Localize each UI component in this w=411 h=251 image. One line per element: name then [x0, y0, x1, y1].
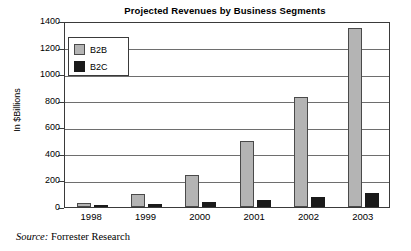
- bar-b2c-2002: [311, 197, 325, 207]
- y-tick-label: 0: [20, 203, 60, 212]
- bar-b2c-2000: [202, 202, 216, 207]
- bar-b2b-2001: [240, 141, 254, 207]
- gridline: [65, 182, 389, 183]
- bar-b2b-2002: [294, 97, 308, 207]
- x-tick-label-2000: 2000: [180, 211, 220, 222]
- y-tick-label: 1400: [20, 17, 60, 26]
- bar-b2b-2000: [185, 175, 199, 207]
- source-note: Source: Forrester Research: [16, 231, 130, 242]
- legend-swatch-b2c-icon: [74, 61, 85, 72]
- x-tick-label-2001: 2001: [234, 211, 274, 222]
- bar-b2c-2001: [257, 200, 271, 207]
- y-tick-label: 1200: [20, 44, 60, 53]
- y-tick-label: 200: [20, 176, 60, 185]
- x-tick-label-1999: 1999: [126, 211, 166, 222]
- y-tick-label: 600: [20, 123, 60, 132]
- gridline: [65, 102, 389, 103]
- bar-b2b-1998: [77, 203, 91, 207]
- chart-title: Projected Revenues by Business Segments: [60, 5, 390, 16]
- bar-b2b-1999: [131, 194, 145, 207]
- y-tick-label: 400: [20, 150, 60, 159]
- y-tick-mark: [58, 208, 64, 209]
- legend-item-b2c: B2C: [74, 58, 128, 75]
- gridline: [65, 129, 389, 130]
- bar-b2c-1998: [94, 205, 108, 207]
- chart-legend: B2B B2C: [68, 37, 129, 76]
- y-tick-label: 800: [20, 97, 60, 106]
- bar-b2b-2003: [348, 28, 362, 207]
- x-tick-label-2002: 2002: [289, 211, 329, 222]
- legend-label-b2c: B2C: [90, 62, 108, 72]
- bar-b2c-1999: [148, 204, 162, 207]
- bar-b2c-2003: [365, 193, 379, 207]
- x-tick-label-2003: 2003: [343, 211, 383, 222]
- y-tick-label: 1000: [20, 70, 60, 79]
- legend-label-b2b: B2B: [90, 45, 107, 55]
- source-text: Forrester Research: [48, 231, 130, 242]
- x-tick-label-1998: 1998: [71, 211, 111, 222]
- legend-swatch-b2b-icon: [74, 44, 85, 55]
- source-lead: Source:: [16, 231, 48, 242]
- gridline: [65, 155, 389, 156]
- bar-chart: Projected Revenues by Business Segments …: [0, 0, 411, 251]
- legend-item-b2b: B2B: [74, 41, 128, 58]
